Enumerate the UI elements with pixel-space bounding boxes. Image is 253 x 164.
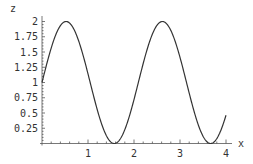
axes: 12340.250.50.7511.251.51.752: [14, 16, 232, 159]
y-tick-label: 0.25: [14, 123, 38, 134]
y-tick-label: 1.25: [14, 62, 38, 73]
x-axis-label: x: [238, 138, 244, 149]
y-tick-label: 1.5: [20, 47, 38, 58]
y-axis-label: z: [10, 3, 16, 14]
data-curve: [42, 22, 226, 144]
y-tick-label: 1.75: [14, 31, 38, 42]
x-tick-label: 1: [85, 148, 91, 159]
line-plot: 12340.250.50.7511.251.51.752 x z: [0, 0, 253, 164]
y-tick-label: 2: [32, 16, 38, 27]
x-tick-label: 2: [131, 148, 137, 159]
y-tick-label: 0.75: [14, 92, 38, 103]
y-tick-label: 0.5: [20, 108, 38, 119]
y-tick-label: 1: [32, 77, 38, 88]
x-tick-label: 4: [223, 148, 229, 159]
x-tick-label: 3: [177, 148, 183, 159]
